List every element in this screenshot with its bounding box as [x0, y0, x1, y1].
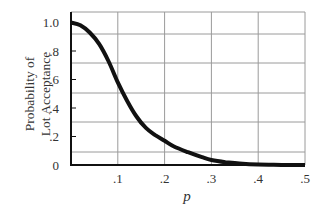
y-axis-label: Probability of Lot Acceptance — [22, 52, 53, 136]
y-tick-label: 1.0 — [43, 15, 59, 30]
x-tick-label: .1 — [113, 171, 123, 186]
x-axis-label: p — [182, 188, 191, 204]
x-tick-label: .2 — [160, 171, 170, 186]
x-tick-label: .3 — [207, 171, 217, 186]
y-axis-label-line-1: Probability of — [22, 56, 37, 131]
data-series — [71, 23, 305, 166]
x-tick-label: .4 — [253, 171, 263, 186]
x-axis-tick-labels: .1.2.3.4.5 — [113, 171, 310, 186]
axes — [70, 12, 305, 166]
oc-curve-chart: 0.2.4.6.81.0 .1.2.3.4.5 p Probability of… — [0, 0, 322, 211]
oc-curve-line — [71, 23, 305, 166]
y-axis-label-line-2: Lot Acceptance — [38, 52, 53, 136]
x-tick-label: .5 — [300, 171, 310, 186]
grid-lines — [71, 12, 305, 165]
y-tick-label: 0 — [53, 158, 60, 173]
